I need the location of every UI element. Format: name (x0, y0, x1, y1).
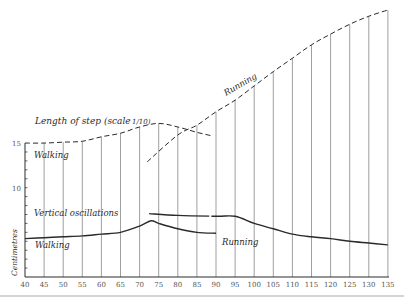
bottom-rule (0, 295, 404, 297)
vertical-oscillations-label: Vertical oscillations (34, 208, 119, 218)
x-tick-label: 50 (59, 281, 68, 289)
x-tick-label: 80 (173, 281, 182, 289)
x-tick-label: 100 (248, 281, 261, 289)
x-tick-label: 85 (192, 281, 201, 289)
walking-oscillation-label: Walking (35, 240, 70, 250)
walking-step-label: Walking (34, 150, 69, 160)
y-tick-labels: 1510 (12, 140, 21, 193)
x-tick-label: 45 (40, 281, 49, 289)
x-tick-label: 125 (343, 281, 356, 289)
x-tick-label: 90 (212, 281, 221, 289)
vertical-gridlines (44, 10, 388, 277)
x-tick-label: 70 (135, 281, 144, 289)
length-of-step-label: Length of step (scale (34, 116, 131, 126)
x-tick-label: 75 (154, 281, 163, 289)
chart: 4045505560657075808590951001051101151201… (0, 0, 404, 298)
y-tick-label: 10 (12, 185, 21, 193)
oscillation-running-line (149, 214, 388, 245)
x-tick-label: 110 (286, 281, 299, 289)
length-of-step-scale: 1/10) (132, 118, 151, 126)
step-running-line (147, 10, 388, 162)
step-walking-line (25, 123, 212, 143)
running-oscillation-label: Running (221, 237, 259, 247)
x-tick-label: 115 (305, 281, 318, 289)
x-tick-label: 105 (267, 281, 280, 289)
x-tick-label: 95 (231, 281, 240, 289)
x-tick-label: 130 (362, 281, 375, 289)
x-tick-label: 60 (97, 281, 106, 289)
x-tick-label: 40 (21, 281, 30, 289)
x-tick-labels: 4045505560657075808590951001051101151201… (21, 281, 395, 289)
x-tick-label: 55 (78, 281, 87, 289)
x-tick-label: 120 (324, 281, 337, 289)
running-step-label: Running (221, 71, 259, 99)
x-tick-label: 135 (381, 281, 394, 289)
y-axis-label: Centimetres (10, 229, 19, 276)
x-tick-label: 65 (116, 281, 125, 289)
y-tick-label: 15 (12, 140, 21, 148)
